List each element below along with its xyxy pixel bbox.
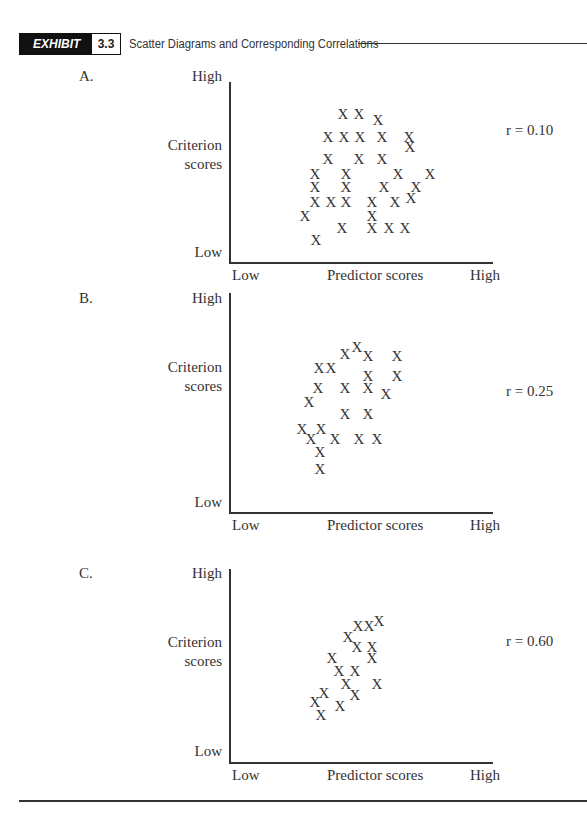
data-point-x-marker: X xyxy=(362,619,376,634)
y-low-label: Low xyxy=(195,743,223,760)
y-axis xyxy=(229,569,231,763)
data-point-x-marker: X xyxy=(324,361,338,376)
y-axis-title: Criterion scores xyxy=(168,633,222,671)
x-low-label: Low xyxy=(232,767,260,784)
y-low-label: Low xyxy=(195,244,223,261)
panel-letter: C. xyxy=(79,565,93,582)
scatter-panel-c: C. High Criterion scores Low Low Predict… xyxy=(0,0,587,200)
y-axis xyxy=(229,293,231,513)
bottom-rule xyxy=(19,800,587,802)
data-point-x-marker: X xyxy=(309,233,323,248)
x-axis-title: Predictor scores xyxy=(327,767,423,784)
data-point-x-marker: X xyxy=(313,445,327,460)
correlation-label: r = 0.60 xyxy=(506,633,553,650)
x-high-label: High xyxy=(470,767,500,784)
data-point-x-marker: X xyxy=(365,221,379,236)
x-high-label: High xyxy=(470,267,500,284)
x-high-label: High xyxy=(470,517,500,534)
x-axis xyxy=(229,512,493,514)
y-high-label: High xyxy=(192,565,222,582)
data-point-x-marker: X xyxy=(379,387,393,402)
data-point-x-marker: X xyxy=(350,640,364,655)
y-axis-title-line2: scores xyxy=(168,652,222,671)
data-point-x-marker: X xyxy=(390,369,404,384)
data-point-x-marker: X xyxy=(313,462,327,477)
data-point-x-marker: X xyxy=(370,677,384,692)
y-high-label: High xyxy=(192,290,222,307)
x-axis xyxy=(229,762,493,764)
data-point-x-marker: X xyxy=(361,349,375,364)
y-axis-title-line1: Criterion xyxy=(168,633,222,652)
data-point-x-marker: X xyxy=(338,381,352,396)
data-point-x-marker: X xyxy=(333,699,347,714)
y-axis-title-line1: Criterion xyxy=(168,358,222,377)
x-axis-title: Predictor scores xyxy=(327,517,423,534)
data-point-x-marker: X xyxy=(338,347,352,362)
data-point-x-marker: X xyxy=(398,221,412,236)
y-low-label: Low xyxy=(195,494,223,511)
data-point-x-marker: X xyxy=(365,651,379,666)
y-axis-title: Criterion scores xyxy=(168,358,222,396)
data-point-x-marker: X xyxy=(348,688,362,703)
data-point-x-marker: X xyxy=(298,209,312,224)
data-point-x-marker: X xyxy=(390,349,404,364)
data-point-x-marker: X xyxy=(338,407,352,422)
x-axis xyxy=(229,262,493,264)
x-axis-title: Predictor scores xyxy=(327,267,423,284)
data-point-x-marker: X xyxy=(335,221,349,236)
x-low-label: Low xyxy=(232,517,260,534)
data-point-x-marker: X xyxy=(382,221,396,236)
y-axis-title-line2: scores xyxy=(168,377,222,396)
data-point-x-marker: X xyxy=(361,381,375,396)
correlation-label: r = 0.25 xyxy=(506,383,553,400)
data-point-x-marker: X xyxy=(302,395,316,410)
data-point-x-marker: X xyxy=(328,432,342,447)
data-point-x-marker: X xyxy=(361,407,375,422)
data-point-x-marker: X xyxy=(352,432,366,447)
x-low-label: Low xyxy=(232,267,260,284)
panel-letter: B. xyxy=(79,290,93,307)
data-point-x-marker: X xyxy=(314,708,328,723)
data-point-x-marker: X xyxy=(370,432,384,447)
